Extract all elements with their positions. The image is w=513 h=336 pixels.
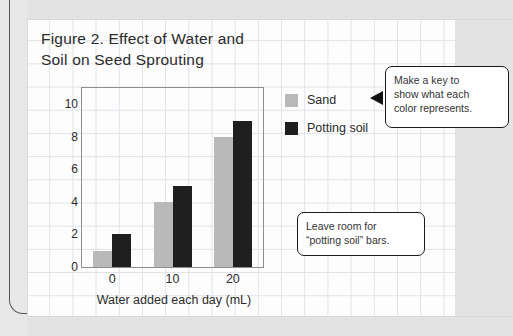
bar-potting-soil-10: [173, 186, 192, 267]
bar-potting-soil-0: [112, 234, 131, 267]
legend-swatch-potting-soil: [285, 122, 298, 135]
bar-sand-10: [154, 202, 173, 267]
bars-layer: [82, 88, 263, 267]
x-axis-label: Water added each day (mL): [60, 293, 288, 307]
bar-group: [93, 88, 131, 267]
callout-make-a-key: Make a key to show what each color repre…: [385, 66, 509, 128]
x-axis-ticks: 01020: [82, 272, 263, 290]
legend-item: Potting soil: [285, 114, 368, 142]
bar-sand-20: [214, 137, 233, 267]
bar-sand-0: [93, 251, 112, 267]
y-axis-ticks: 0246810: [58, 84, 78, 268]
bar-potting-soil-20: [233, 121, 252, 267]
paper-right-shading: [455, 20, 513, 316]
legend-label: Potting soil: [307, 121, 368, 135]
figure-title: Figure 2. Effect of Water and Soil on Se…: [41, 28, 291, 70]
x-tick-label: 0: [109, 272, 116, 286]
y-tick-label: 8: [58, 130, 78, 144]
x-tick-label: 10: [166, 272, 180, 286]
bar-group: [214, 88, 252, 267]
callout-pointer-icon: [370, 91, 383, 105]
y-tick-label: 0: [58, 260, 78, 274]
bar-group: [154, 88, 192, 267]
legend-item: Sand: [285, 86, 368, 114]
x-tick-label: 20: [226, 272, 240, 286]
legend-label: Sand: [307, 93, 336, 107]
chart-legend: SandPotting soil: [285, 86, 368, 142]
y-tick-label: 2: [58, 227, 78, 241]
y-tick-label: 6: [58, 162, 78, 176]
y-tick-label: 10: [58, 97, 78, 111]
screenshot-root: Figure 2. Effect of Water and Soil on Se…: [0, 0, 513, 336]
y-tick-label: 4: [58, 195, 78, 209]
legend-swatch-sand: [285, 94, 298, 107]
callout-leave-room: Leave room for “potting soil” bars.: [297, 212, 425, 256]
